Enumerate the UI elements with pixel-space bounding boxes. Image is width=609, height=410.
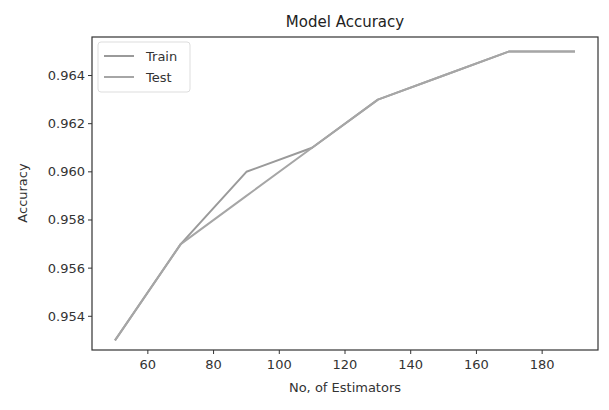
y-tick-label: 0.958 [48, 212, 85, 227]
legend-label-train: Train [145, 49, 177, 64]
accuracy-line-chart: Model Accuracy 0.9540.9560.9580.9600.962… [0, 0, 609, 410]
legend: TrainTest [98, 42, 190, 92]
x-tick-label: 80 [205, 357, 222, 372]
x-tick-label: 140 [398, 357, 423, 372]
y-axis: 0.9540.9560.9580.9600.9620.964 [48, 68, 92, 324]
y-tick-label: 0.964 [48, 68, 85, 83]
x-tick-label: 180 [530, 357, 555, 372]
y-tick-label: 0.960 [48, 164, 85, 179]
x-tick-label: 160 [464, 357, 489, 372]
x-axis-title: No, of Estimators [289, 380, 401, 395]
x-axis: 6080100120140160180 [140, 350, 555, 372]
x-tick-label: 60 [140, 357, 157, 372]
y-tick-label: 0.962 [48, 116, 85, 131]
chart-title: Model Accuracy [286, 13, 404, 31]
y-tick-label: 0.954 [48, 309, 85, 324]
x-tick-label: 120 [333, 357, 358, 372]
x-tick-label: 100 [267, 357, 292, 372]
y-axis-title: Accuracy [15, 163, 30, 223]
legend-label-test: Test [145, 70, 172, 85]
y-tick-label: 0.956 [48, 261, 85, 276]
